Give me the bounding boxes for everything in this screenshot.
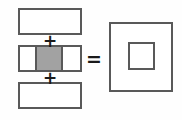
inner-square — [128, 42, 155, 70]
plus-operator-icon: + — [43, 33, 57, 47]
middle-band-segment-left — [20, 47, 35, 70]
middle-band-segment-right — [63, 47, 80, 70]
plus-operator-icon: + — [43, 70, 57, 84]
right-operand-group — [91, 0, 182, 120]
diagram-canvas: + + = — [0, 0, 182, 120]
left-operand-group: + + — [0, 0, 91, 120]
